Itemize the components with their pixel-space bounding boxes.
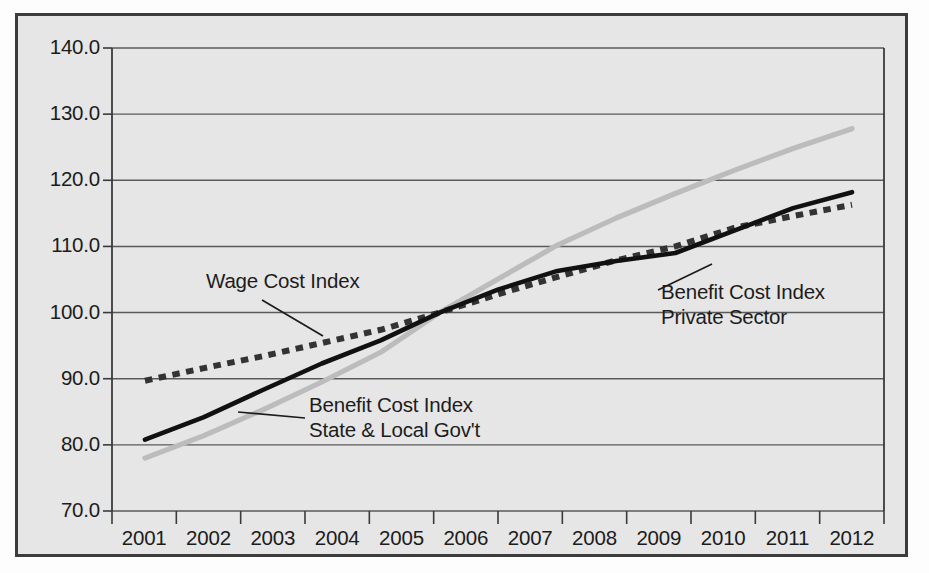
x-tick-marks-group (112, 511, 884, 524)
y-tick-marks-group (103, 48, 112, 511)
annotation-line: Private Sector (661, 304, 825, 329)
annotation-line: State & Local Gov't (309, 417, 480, 442)
leader-line-wage-cost-index (262, 300, 323, 336)
annotation-line: Benefit Cost Index (661, 279, 825, 304)
y-axis-tick-label: 120.0 (6, 167, 100, 191)
y-axis-tick-label: 80.0 (6, 432, 100, 456)
y-axis-tick-label: 130.0 (6, 101, 100, 125)
y-axis-tick-label: 70.0 (6, 498, 100, 522)
annotation-benefit-cost-index-private: Benefit Cost Index Private Sector (661, 279, 825, 329)
y-axis-tick-label: 110.0 (6, 233, 100, 257)
y-axis-tick-label: 100.0 (6, 300, 100, 324)
annotation-line: Wage Cost Index (206, 268, 359, 293)
x-axis-tick-label: 2012 (812, 526, 892, 550)
annotation-line: Benefit Cost Index (309, 392, 480, 417)
annotation-wage-cost-index: Wage Cost Index (206, 268, 359, 293)
annotation-benefit-cost-index-state-local: Benefit Cost Index State & Local Gov't (309, 392, 480, 442)
chart-figure: 140.0130.0120.0110.0100.090.080.070.0 20… (0, 0, 929, 573)
y-axis-tick-label: 90.0 (6, 366, 100, 390)
y-axis-tick-label: 140.0 (6, 35, 100, 59)
